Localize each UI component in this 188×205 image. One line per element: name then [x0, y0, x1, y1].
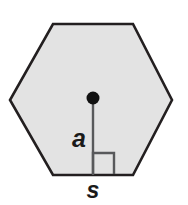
hexagon-diagram-canvas: a s: [0, 0, 188, 205]
side-length-label: s: [87, 177, 100, 203]
center-dot: [87, 92, 100, 105]
hexagon-figure: a s: [0, 0, 188, 205]
apothem-label: a: [72, 124, 86, 152]
